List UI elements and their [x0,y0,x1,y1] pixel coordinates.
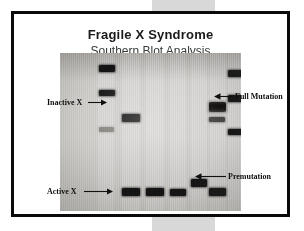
gel-vignette-overlay [60,53,241,211]
annotation-label-inactive-x: Inactive X [47,99,82,107]
annotation-label-active-x: Active X [47,188,77,196]
page-title: Fragile X Syndrome [14,27,287,42]
southern-blot-gel-image [60,53,241,211]
annotation-label-premutation: Premutation [228,173,271,181]
annotation-label-full-mutation: Full Mutation [235,93,283,101]
figure-page: Fragile X Syndrome Southern Blot Analysi… [0,0,304,231]
